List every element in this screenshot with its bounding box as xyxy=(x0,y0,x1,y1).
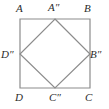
outer-square-ABCD xyxy=(20,19,90,88)
label-vertex-a-double-prime: A″ xyxy=(48,2,59,13)
label-vertex-d: D xyxy=(15,92,23,103)
label-vertex-a: A xyxy=(16,3,23,14)
label-vertex-b-double-prime: B″ xyxy=(90,49,101,60)
label-vertex-c: C xyxy=(85,92,92,103)
label-vertex-c-double-prime: C″ xyxy=(49,92,61,103)
geometry-figure: A B C D A″ B″ C″ D″ xyxy=(0,0,109,109)
inner-square-A2B2C2D2 xyxy=(20,19,90,88)
label-vertex-d-double-prime: D″ xyxy=(1,49,14,60)
label-vertex-b: B xyxy=(84,3,91,14)
